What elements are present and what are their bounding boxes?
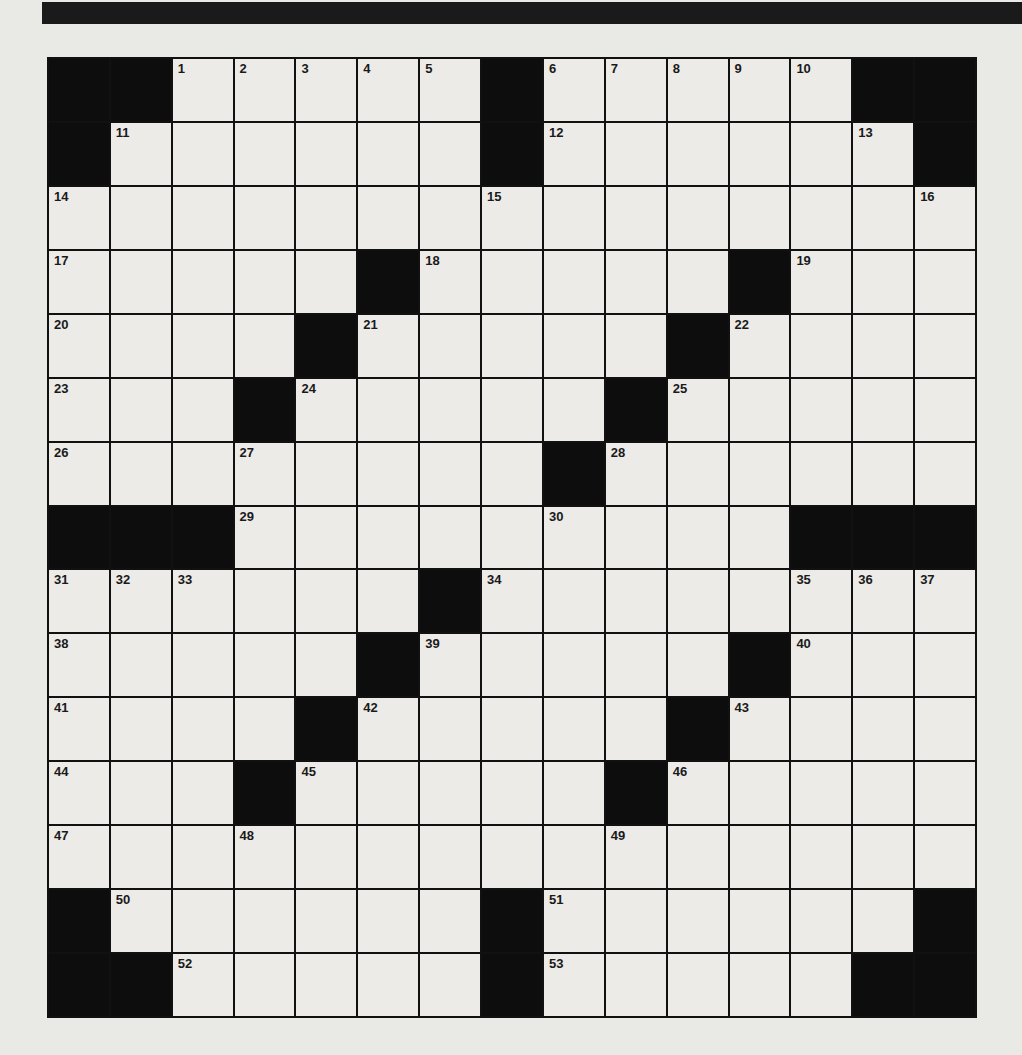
answer-cell[interactable]: 41 bbox=[49, 698, 109, 760]
answer-cell[interactable] bbox=[915, 379, 975, 441]
answer-cell[interactable]: 45 bbox=[296, 762, 356, 824]
answer-cell[interactable]: 43 bbox=[730, 698, 790, 760]
answer-cell[interactable]: 28 bbox=[606, 443, 666, 505]
answer-cell[interactable]: 6 bbox=[544, 59, 604, 121]
answer-cell[interactable]: 23 bbox=[49, 379, 109, 441]
answer-cell[interactable] bbox=[173, 826, 233, 888]
answer-cell[interactable] bbox=[730, 954, 790, 1016]
answer-cell[interactable] bbox=[420, 443, 480, 505]
answer-cell[interactable] bbox=[482, 826, 542, 888]
answer-cell[interactable] bbox=[915, 634, 975, 696]
answer-cell[interactable] bbox=[173, 187, 233, 249]
answer-cell[interactable] bbox=[730, 443, 790, 505]
answer-cell[interactable]: 36 bbox=[853, 570, 913, 632]
answer-cell[interactable] bbox=[235, 187, 295, 249]
answer-cell[interactable] bbox=[173, 315, 233, 377]
answer-cell[interactable] bbox=[420, 890, 480, 952]
answer-cell[interactable] bbox=[668, 123, 728, 185]
answer-cell[interactable] bbox=[420, 187, 480, 249]
answer-cell[interactable] bbox=[358, 123, 418, 185]
answer-cell[interactable] bbox=[544, 634, 604, 696]
answer-cell[interactable] bbox=[544, 570, 604, 632]
answer-cell[interactable] bbox=[173, 123, 233, 185]
answer-cell[interactable]: 17 bbox=[49, 251, 109, 313]
answer-cell[interactable]: 15 bbox=[482, 187, 542, 249]
answer-cell[interactable]: 34 bbox=[482, 570, 542, 632]
answer-cell[interactable] bbox=[482, 634, 542, 696]
answer-cell[interactable] bbox=[668, 507, 728, 569]
answer-cell[interactable] bbox=[173, 443, 233, 505]
answer-cell[interactable] bbox=[482, 762, 542, 824]
answer-cell[interactable] bbox=[668, 634, 728, 696]
answer-cell[interactable] bbox=[791, 890, 851, 952]
answer-cell[interactable] bbox=[235, 890, 295, 952]
answer-cell[interactable] bbox=[668, 443, 728, 505]
answer-cell[interactable]: 25 bbox=[668, 379, 728, 441]
answer-cell[interactable] bbox=[791, 443, 851, 505]
answer-cell[interactable] bbox=[853, 187, 913, 249]
answer-cell[interactable] bbox=[915, 762, 975, 824]
answer-cell[interactable] bbox=[544, 379, 604, 441]
answer-cell[interactable] bbox=[853, 443, 913, 505]
answer-cell[interactable] bbox=[420, 379, 480, 441]
answer-cell[interactable]: 33 bbox=[173, 570, 233, 632]
answer-cell[interactable]: 46 bbox=[668, 762, 728, 824]
answer-cell[interactable]: 24 bbox=[296, 379, 356, 441]
answer-cell[interactable]: 48 bbox=[235, 826, 295, 888]
answer-cell[interactable] bbox=[482, 251, 542, 313]
answer-cell[interactable] bbox=[111, 826, 171, 888]
answer-cell[interactable]: 47 bbox=[49, 826, 109, 888]
answer-cell[interactable]: 13 bbox=[853, 123, 913, 185]
answer-cell[interactable]: 38 bbox=[49, 634, 109, 696]
answer-cell[interactable] bbox=[791, 762, 851, 824]
answer-cell[interactable] bbox=[420, 315, 480, 377]
answer-cell[interactable] bbox=[358, 187, 418, 249]
answer-cell[interactable] bbox=[358, 379, 418, 441]
answer-cell[interactable] bbox=[915, 251, 975, 313]
answer-cell[interactable] bbox=[730, 890, 790, 952]
answer-cell[interactable] bbox=[296, 570, 356, 632]
answer-cell[interactable] bbox=[730, 762, 790, 824]
answer-cell[interactable]: 11 bbox=[111, 123, 171, 185]
answer-cell[interactable]: 22 bbox=[730, 315, 790, 377]
answer-cell[interactable]: 39 bbox=[420, 634, 480, 696]
answer-cell[interactable] bbox=[420, 698, 480, 760]
answer-cell[interactable] bbox=[235, 251, 295, 313]
answer-cell[interactable] bbox=[606, 570, 666, 632]
answer-cell[interactable] bbox=[853, 698, 913, 760]
answer-cell[interactable] bbox=[606, 954, 666, 1016]
answer-cell[interactable] bbox=[296, 251, 356, 313]
answer-cell[interactable] bbox=[420, 826, 480, 888]
answer-cell[interactable] bbox=[606, 698, 666, 760]
answer-cell[interactable] bbox=[111, 698, 171, 760]
answer-cell[interactable] bbox=[606, 890, 666, 952]
answer-cell[interactable]: 27 bbox=[235, 443, 295, 505]
answer-cell[interactable]: 32 bbox=[111, 570, 171, 632]
answer-cell[interactable] bbox=[235, 123, 295, 185]
answer-cell[interactable]: 29 bbox=[235, 507, 295, 569]
answer-cell[interactable]: 7 bbox=[606, 59, 666, 121]
answer-cell[interactable]: 26 bbox=[49, 443, 109, 505]
answer-cell[interactable] bbox=[606, 251, 666, 313]
answer-cell[interactable] bbox=[606, 123, 666, 185]
answer-cell[interactable] bbox=[358, 507, 418, 569]
answer-cell[interactable] bbox=[111, 634, 171, 696]
answer-cell[interactable] bbox=[111, 315, 171, 377]
answer-cell[interactable] bbox=[235, 570, 295, 632]
answer-cell[interactable]: 35 bbox=[791, 570, 851, 632]
answer-cell[interactable] bbox=[173, 698, 233, 760]
answer-cell[interactable] bbox=[173, 251, 233, 313]
answer-cell[interactable] bbox=[482, 315, 542, 377]
answer-cell[interactable]: 4 bbox=[358, 59, 418, 121]
answer-cell[interactable] bbox=[853, 315, 913, 377]
answer-cell[interactable] bbox=[853, 826, 913, 888]
answer-cell[interactable] bbox=[606, 634, 666, 696]
answer-cell[interactable] bbox=[296, 123, 356, 185]
answer-cell[interactable]: 42 bbox=[358, 698, 418, 760]
answer-cell[interactable] bbox=[791, 698, 851, 760]
answer-cell[interactable] bbox=[544, 251, 604, 313]
answer-cell[interactable] bbox=[915, 443, 975, 505]
answer-cell[interactable] bbox=[358, 826, 418, 888]
answer-cell[interactable] bbox=[730, 123, 790, 185]
answer-cell[interactable]: 53 bbox=[544, 954, 604, 1016]
